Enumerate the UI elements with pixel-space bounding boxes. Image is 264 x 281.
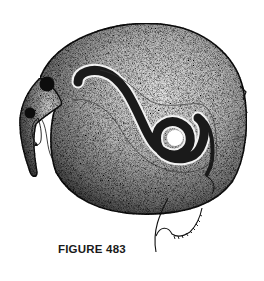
gut-loop — [167, 130, 183, 146]
claw-spines — [174, 215, 202, 239]
illustration — [0, 0, 264, 281]
ocellus — [25, 108, 36, 119]
compound-eye — [40, 77, 55, 92]
figure-caption: FIGURE 483 — [58, 243, 126, 255]
